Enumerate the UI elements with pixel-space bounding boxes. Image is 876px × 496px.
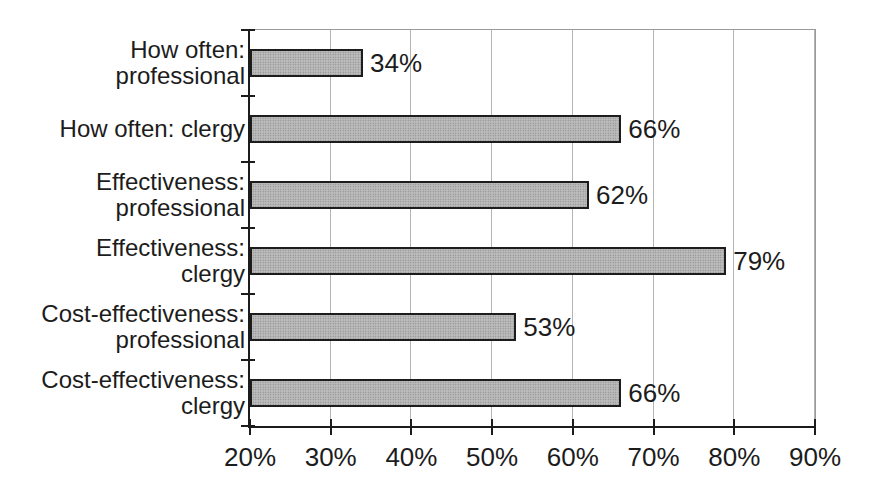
category-label: Cost-effectiveness:clergy	[1, 360, 245, 426]
bar-value-label: 79%	[733, 228, 785, 294]
gridline	[491, 30, 492, 426]
bar	[250, 379, 621, 407]
bar-value-label: 66%	[628, 360, 680, 426]
y-tick-mark	[241, 227, 255, 229]
x-tick-mark	[814, 419, 816, 435]
category-label-line: clergy	[1, 261, 245, 287]
x-tick-label: 60%	[527, 442, 619, 473]
category-label: Cost-effectiveness:professional	[1, 294, 245, 360]
x-tick-label: 50%	[446, 442, 538, 473]
category-label-line: Cost-effectiveness:	[1, 367, 245, 393]
gridline	[330, 30, 331, 426]
bar-value-label: 62%	[596, 162, 648, 228]
bar	[250, 181, 589, 209]
x-tick-mark	[249, 419, 251, 435]
x-tick-label: 80%	[688, 442, 780, 473]
y-tick-mark	[241, 161, 255, 163]
category-label: How often: clergy	[1, 96, 245, 162]
category-label-line: How often:	[1, 37, 245, 63]
category-label: How often:professional	[1, 30, 245, 96]
x-tick-label: 30%	[285, 442, 377, 473]
category-label-line: How often: clergy	[1, 116, 245, 142]
y-tick-mark	[241, 95, 255, 97]
x-tick-label: 90%	[769, 442, 861, 473]
category-label-line: clergy	[1, 393, 245, 419]
y-tick-mark	[241, 29, 255, 31]
plot-area: 34%66%62%79%53%66%	[248, 29, 816, 428]
x-tick-label: 40%	[365, 442, 457, 473]
category-label: Effectiveness:clergy	[1, 228, 245, 294]
category-label: Effectiveness:professional	[1, 162, 245, 228]
x-tick-mark	[410, 419, 412, 435]
y-tick-mark	[241, 293, 255, 295]
y-tick-mark	[241, 425, 255, 427]
bar-value-label: 66%	[628, 96, 680, 162]
gridline	[814, 30, 815, 426]
x-tick-label: 20%	[204, 442, 296, 473]
x-tick-mark	[733, 419, 735, 435]
bar	[250, 313, 516, 341]
category-label-line: Effectiveness:	[1, 235, 245, 261]
bar	[250, 247, 726, 275]
category-label-line: professional	[1, 195, 245, 221]
gridline	[572, 30, 573, 426]
x-tick-mark	[491, 419, 493, 435]
category-label-line: Cost-effectiveness:	[1, 301, 245, 327]
bar	[250, 115, 621, 143]
category-label-line: professional	[1, 327, 245, 353]
y-tick-mark	[241, 359, 255, 361]
category-label-line: Effectiveness:	[1, 169, 245, 195]
x-tick-mark	[572, 419, 574, 435]
bar-value-label: 34%	[370, 30, 422, 96]
x-tick-mark	[653, 419, 655, 435]
bar-chart: 34%66%62%79%53%66% How often:professiona…	[0, 0, 876, 496]
bar	[250, 49, 363, 77]
bar-value-label: 53%	[523, 294, 575, 360]
category-label-line: professional	[1, 63, 245, 89]
x-tick-label: 70%	[608, 442, 700, 473]
x-tick-mark	[330, 419, 332, 435]
